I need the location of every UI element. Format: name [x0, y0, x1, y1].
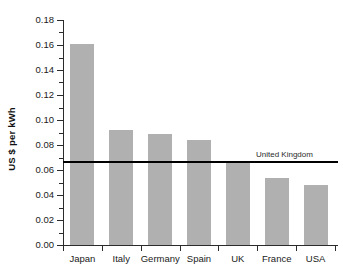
- x-axis-tick-label-italy: Italy: [102, 253, 141, 264]
- y-axis-tick-label: 0.02: [20, 215, 54, 225]
- y-axis-tick-label: 0.08: [20, 140, 54, 150]
- x-axis-tick-label-usa: USA: [296, 253, 335, 264]
- y-axis-tick-label: 0.00: [20, 240, 54, 250]
- x-axis-tick-label-spain: Spain: [180, 253, 219, 264]
- x-axis-tick: [335, 246, 336, 251]
- x-axis-tick-label-france: France: [257, 253, 296, 264]
- x-axis-tick-label-japan: Japan: [63, 253, 102, 264]
- y-axis-tick-label: 0.12: [20, 90, 54, 100]
- x-axis-tick-label-germany: Germany: [141, 253, 180, 264]
- x-axis-tick-label-uk: UK: [218, 253, 257, 264]
- x-axis-tick: [63, 246, 64, 251]
- plot-area: [63, 20, 335, 245]
- x-axis-tick: [257, 246, 258, 251]
- y-axis-tick-label: 0.04: [20, 190, 54, 200]
- y-axis-tick-label: 0.06: [20, 165, 54, 175]
- x-axis-tick: [218, 246, 219, 251]
- x-axis-tick: [180, 246, 181, 251]
- x-axis-tick: [141, 246, 142, 251]
- bar-germany: [148, 134, 172, 245]
- x-axis-tick: [296, 246, 297, 251]
- y-axis-tick-labels: 0.000.020.040.060.080.100.120.140.160.18: [18, 0, 54, 278]
- bar-france: [265, 178, 289, 246]
- uk-reference-line: [63, 161, 338, 163]
- y-axis-tick-label: 0.16: [20, 40, 54, 50]
- bar-chart: US $ per kWh 0.000.020.040.060.080.100.1…: [0, 0, 343, 278]
- bar-spain: [187, 140, 211, 245]
- y-axis-tick-label: 0.10: [20, 115, 54, 125]
- y-axis-tick-label: 0.18: [20, 15, 54, 25]
- uk-reference-line-label: United Kingdom: [256, 150, 313, 159]
- bar-usa: [304, 185, 328, 245]
- y-axis-tick-label: 0.14: [20, 65, 54, 75]
- bar-italy: [109, 130, 133, 245]
- x-axis-tick: [102, 246, 103, 251]
- bar-japan: [70, 44, 94, 245]
- bar-uk: [226, 161, 250, 245]
